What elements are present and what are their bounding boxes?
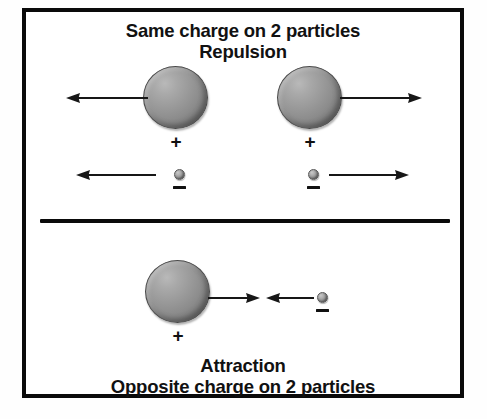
- repulsion-heading-line2: Repulsion: [26, 41, 460, 62]
- electron-left-force-arrow: [76, 167, 156, 183]
- electrostatics-diagram: Same charge on 2 particles Repulsion + +: [0, 0, 487, 419]
- proton-left-sphere: [143, 66, 208, 129]
- proton-right-charge-sign: +: [300, 132, 320, 151]
- electron-right-force-arrow: [329, 167, 409, 183]
- attraction-caption-line2: Opposite charge on 2 particles: [26, 376, 460, 397]
- electron-right-charge-sign: [307, 186, 320, 189]
- proton-right-sphere: [277, 66, 342, 129]
- attraction-proton-force-arrow: [208, 290, 260, 306]
- repulsion-heading-line1: Same charge on 2 particles: [26, 20, 460, 41]
- panel-divider: [40, 219, 450, 223]
- attraction-electron-charge-sign: [316, 309, 329, 312]
- electron-left-charge-sign: [173, 186, 186, 189]
- attraction-proton-sphere: [145, 260, 210, 323]
- attraction-proton-charge-sign: +: [168, 326, 188, 345]
- attraction-caption-line1: Attraction: [26, 355, 460, 376]
- attraction-electron-sphere: [317, 292, 328, 303]
- electron-right-sphere: [308, 169, 319, 180]
- diagram-frame: Same charge on 2 particles Repulsion + +: [22, 8, 464, 398]
- proton-left-charge-sign: +: [166, 132, 186, 151]
- proton-left-force-arrow: [66, 90, 148, 106]
- proton-right-force-arrow: [340, 90, 422, 106]
- electron-left-sphere: [174, 169, 185, 180]
- attraction-electron-force-arrow: [266, 290, 314, 306]
